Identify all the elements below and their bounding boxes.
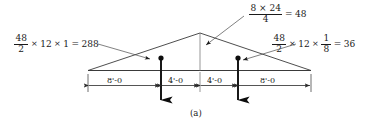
apex-ordinate-formula: 8 × 24 4 = 48	[249, 4, 306, 24]
figure-caption: (a)	[190, 108, 202, 118]
left-reaction-moment-formula: 48 2 × 12 × 1 = 288	[14, 34, 99, 54]
dimension-label-span-4: 8'-0	[258, 76, 277, 85]
multiply-icon: ×	[289, 40, 296, 48]
left-formula-result: 288	[82, 40, 99, 49]
apex-formula-denominator: 4	[261, 15, 270, 25]
apex-formula-numerator: 8 × 24	[249, 4, 282, 14]
diagram-canvas	[0, 0, 379, 123]
multiply-icon: ×	[54, 40, 61, 48]
apex-formula-result: 48	[295, 10, 306, 19]
right-formula-fraction-1: 48 2	[272, 34, 286, 54]
left-formula-leader	[98, 44, 150, 59]
right-formula-fraction-2-numerator: 1	[322, 34, 331, 44]
left-formula-numerator: 48	[14, 34, 28, 44]
left-formula-fraction: 48 2	[14, 34, 28, 54]
dimension-label-span-1: 8'-0	[105, 76, 124, 85]
right-formula-numerator: 48	[272, 34, 286, 44]
right-formula-denominator: 2	[275, 45, 284, 55]
equals-icon: =	[334, 40, 342, 49]
moment-diagram-figure: 48 2 × 12 × 1 = 288 8 × 24 4 = 48	[0, 0, 379, 123]
multiply-icon: ×	[312, 40, 319, 48]
left-formula-denominator: 2	[17, 45, 26, 55]
right-reaction-moment-formula: 48 2 × 12 × 1 8 = 36	[272, 34, 355, 54]
apex-formula-fraction: 8 × 24 4	[249, 4, 282, 24]
equals-icon: =	[285, 10, 293, 19]
multiply-icon: ×	[31, 40, 38, 48]
equals-icon: =	[72, 40, 80, 49]
dimension-label-span-2: 4'-0	[166, 76, 185, 85]
right-formula-fraction-2-denominator: 8	[322, 45, 331, 55]
dimension-label-span-3: 4'-0	[205, 76, 224, 85]
right-formula-result: 36	[344, 40, 355, 49]
right-formula-fraction-2: 1 8	[321, 34, 331, 54]
left-formula-factor-1: 12	[40, 40, 51, 49]
left-formula-factor-2: 1	[63, 40, 69, 49]
right-formula-factor-1: 12	[298, 40, 309, 49]
apex-formula-leader	[206, 16, 244, 45]
